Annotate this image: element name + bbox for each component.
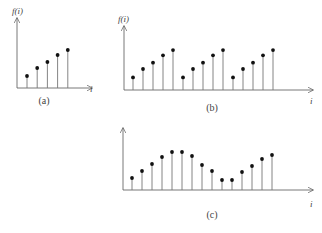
stem-marker (141, 67, 145, 71)
stem-marker (180, 150, 184, 154)
panel-a-label: (a) (38, 95, 49, 107)
panel-b-ylabel: f(i) (118, 14, 129, 24)
panel-a-xlabel: i (90, 84, 93, 94)
figure: f(i) i (a) f(i) i (b) i (c) (0, 0, 322, 233)
stem-marker (271, 48, 275, 52)
stem-marker (130, 176, 134, 180)
panel-b (124, 26, 313, 90)
stem-marker (56, 53, 60, 57)
panel-c-label: (c) (206, 209, 217, 221)
stem-marker (66, 48, 70, 52)
stem-marker (251, 61, 255, 65)
stem-marker (25, 74, 29, 78)
stem-marker (261, 53, 265, 57)
panel-c-xlabel: i (310, 199, 313, 209)
stem-marker (35, 66, 39, 70)
stem-marker (170, 150, 174, 154)
stem-marker (250, 164, 254, 168)
stem-marker (131, 76, 135, 80)
panel-a (17, 18, 92, 88)
stem-marker (161, 53, 165, 57)
stem-marker (210, 169, 214, 173)
stem-marker (191, 67, 195, 71)
panel-b-xlabel: i (310, 96, 313, 106)
stem-marker (270, 153, 274, 157)
stem-marker (46, 60, 50, 64)
stem-marker (220, 178, 224, 182)
stem-marker (171, 48, 175, 52)
stem-marker (200, 163, 204, 167)
stem-marker (201, 61, 205, 65)
stem-marker (211, 53, 215, 57)
stem-marker (231, 76, 235, 80)
stem-marker (190, 154, 194, 158)
panel-c (123, 128, 313, 190)
stem-marker (140, 169, 144, 173)
stem-marker (150, 162, 154, 166)
stem-marker (221, 48, 225, 52)
stem-marker (241, 67, 245, 71)
stem-marker (160, 155, 164, 159)
stem-marker (151, 61, 155, 65)
stem-marker (230, 178, 234, 182)
panel-b-label: (b) (206, 102, 218, 114)
stem-marker (240, 170, 244, 174)
stem-marker (260, 157, 264, 161)
panel-a-ylabel: f(i) (12, 6, 23, 16)
stem-marker (181, 76, 185, 80)
